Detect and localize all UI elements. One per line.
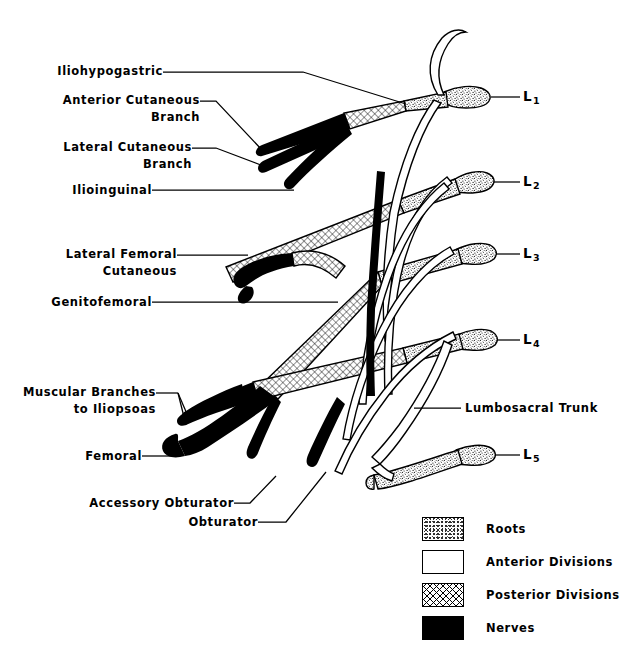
- leader-anterior-cutaneous: [200, 101, 262, 150]
- label-root-l3: L3: [523, 245, 540, 263]
- label-lateral-cutaneous-line-2: Branch: [0, 156, 192, 173]
- label-ilioinguinal: Ilioinguinal: [0, 182, 152, 199]
- label-genitofemoral-line-1: Genitofemoral: [0, 294, 152, 311]
- label-root-l3-letter: L: [523, 245, 532, 261]
- label-anterior-cutaneous-line-2: Branch: [0, 109, 200, 126]
- label-lateral-cutaneous: Lateral Cutaneous Branch: [0, 139, 192, 173]
- label-muscular-branches-line-1: Muscular Branches: [0, 384, 156, 401]
- label-muscular-branches-line-2: to Iliopsoas: [0, 401, 156, 418]
- label-obturator: Obturator: [0, 514, 258, 531]
- legend-swatch-roots: [422, 517, 464, 541]
- legend-swatch-anterior-divisions: [422, 550, 464, 574]
- label-genitofemoral: Genitofemoral: [0, 294, 152, 311]
- label-root-l2: L2: [523, 173, 540, 191]
- label-root-l5-letter: L: [523, 446, 532, 462]
- legend-label-nerves: Nerves: [486, 621, 535, 635]
- label-anterior-cutaneous-line-1: Anterior Cutaneous: [0, 92, 200, 109]
- legend-swatch-posterior-divisions: [422, 583, 464, 607]
- label-anterior-cutaneous: Anterior Cutaneous Branch: [0, 92, 200, 126]
- label-femoral-line-1: Femoral: [0, 448, 142, 465]
- legend-label-roots: Roots: [486, 522, 526, 536]
- label-lumbosacral-trunk: Lumbosacral Trunk: [465, 400, 598, 417]
- nerve-lateral-femoral-cutaneous: [233, 253, 294, 288]
- label-root-l1: L1: [523, 88, 540, 106]
- label-lateral-femoral-cutaneous: Lateral Femoral Cutaneous: [0, 246, 177, 280]
- leader-accessory-obturator: [234, 476, 276, 503]
- nerve-lateral-femoral-cutaneous-tip: [238, 286, 254, 304]
- legend-row-roots: Roots: [422, 512, 618, 545]
- anterior-division-t12: [430, 30, 466, 95]
- label-lumbosacral-trunk-text: Lumbosacral Trunk: [465, 400, 598, 417]
- root-l5-tip: [366, 475, 374, 489]
- label-root-l2-letter: L: [523, 173, 532, 189]
- legend: Roots Anterior Divisions Posterior Divis…: [422, 512, 618, 644]
- posterior-division-l1: [344, 101, 406, 129]
- label-root-l4: L4: [523, 331, 540, 349]
- legend-row-nerves: Nerves: [422, 611, 618, 644]
- legend-row-anterior-divisions: Anterior Divisions: [422, 545, 618, 578]
- label-iliohypogastric-line-1: Iliohypogastric: [0, 63, 163, 80]
- label-accessory-obturator-line-1: Accessory Obturator: [0, 495, 234, 512]
- label-muscular-branches: Muscular Branches to Iliopsoas: [0, 384, 156, 418]
- label-femoral: Femoral: [0, 448, 142, 465]
- label-lateral-femoral-cutaneous-line-1: Lateral Femoral: [0, 246, 177, 263]
- label-ilioinguinal-line-1: Ilioinguinal: [0, 182, 152, 199]
- leader-obturator: [258, 472, 326, 522]
- legend-label-anterior-divisions: Anterior Divisions: [486, 555, 613, 569]
- label-root-l4-letter: L: [523, 331, 532, 347]
- posterior-division-l2-stub: [292, 251, 345, 278]
- label-iliohypogastric: Iliohypogastric: [0, 63, 163, 80]
- label-root-l2-subscript: 2: [533, 180, 540, 191]
- label-accessory-obturator: Accessory Obturator: [0, 495, 234, 512]
- label-root-l5-subscript: 5: [533, 453, 540, 464]
- label-root-l4-subscript: 4: [533, 338, 540, 349]
- label-obturator-line-1: Obturator: [0, 514, 258, 531]
- plexus-drawing: [162, 30, 497, 489]
- legend-label-posterior-divisions: Posterior Divisions: [486, 588, 620, 602]
- legend-row-posterior-divisions: Posterior Divisions: [422, 578, 618, 611]
- label-lateral-femoral-cutaneous-line-2: Cutaneous: [0, 263, 177, 280]
- nerve-obturator: [307, 397, 345, 467]
- label-root-l1-subscript: 1: [533, 95, 540, 106]
- leader-lateral-cutaneous: [192, 148, 266, 167]
- label-root-l1-letter: L: [523, 88, 532, 104]
- label-root-l5: L5: [523, 446, 540, 464]
- label-lateral-cutaneous-line-1: Lateral Cutaneous: [0, 139, 192, 156]
- legend-swatch-nerves: [422, 616, 464, 640]
- label-root-l3-subscript: 3: [533, 252, 540, 263]
